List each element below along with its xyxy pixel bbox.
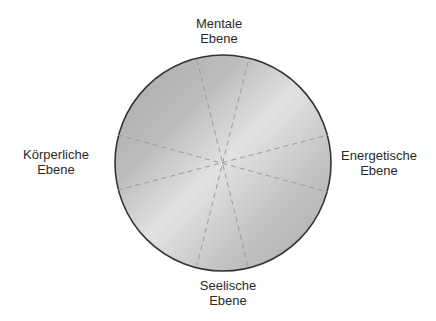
label-energetic-level: Energetische Ebene	[341, 148, 417, 178]
label-energetic-line2: Ebene	[341, 163, 417, 178]
label-mental-level: Mentale Ebene	[196, 16, 242, 46]
label-physical-line1: Körperliche	[23, 147, 89, 162]
label-mental-line2: Ebene	[196, 31, 242, 46]
label-mental-line1: Mentale	[196, 16, 242, 31]
label-physical-line2: Ebene	[23, 162, 89, 177]
label-soul-line1: Seelische	[200, 278, 256, 293]
label-physical-level: Körperliche Ebene	[23, 147, 89, 177]
label-soul-level: Seelische Ebene	[200, 278, 256, 308]
label-soul-line2: Ebene	[200, 293, 256, 308]
label-energetic-line1: Energetische	[341, 148, 417, 163]
